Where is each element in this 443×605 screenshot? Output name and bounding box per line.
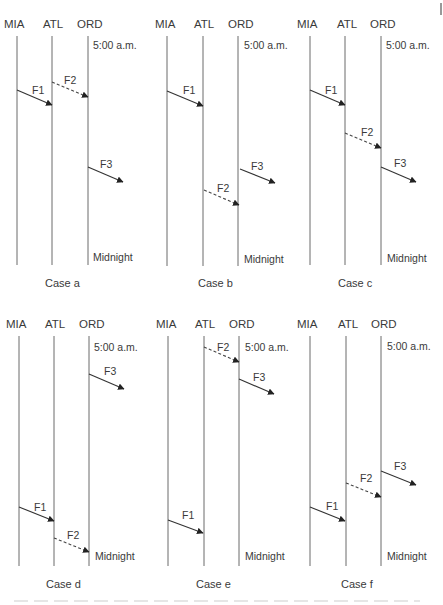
station-label-atl: ATL — [195, 318, 216, 330]
start-time-label: 5:00 a.m. — [93, 39, 137, 51]
end-time-label: Midnight — [244, 253, 284, 265]
station-label-mia: MIA — [155, 18, 176, 30]
flight-label-f2: F2 — [67, 529, 79, 541]
flight-label-f1: F1 — [326, 500, 338, 512]
case-f-panel: MIA ATL ORD 5:00 a.m. Midnight F3 F2 F1 … — [297, 318, 431, 590]
start-time-label: 5:00 a.m. — [386, 39, 430, 51]
case-label: Case f — [341, 578, 374, 590]
flight-arrow-f3 — [381, 471, 416, 485]
end-time-label: Midnight — [95, 550, 135, 562]
station-label-atl: ATL — [338, 318, 359, 330]
station-label-mia: MIA — [297, 318, 318, 330]
case-a-panel: MIA ATL ORD 5:00 a.m. Midnight F1 F2 F3 … — [4, 18, 137, 289]
end-time-label: Midnight — [387, 252, 427, 264]
station-label-mia: MIA — [156, 318, 177, 330]
station-label-ord: ORD — [229, 318, 255, 330]
flight-label-f2: F2 — [360, 472, 372, 484]
flight-label-f2: F2 — [64, 74, 76, 86]
flight-arrow-f1 — [168, 520, 203, 533]
end-time-label: Midnight — [93, 251, 133, 263]
start-time-label: 5:00 a.m. — [244, 39, 288, 51]
station-label-ord: ORD — [77, 18, 103, 30]
end-time-label: Midnight — [387, 550, 427, 562]
case-label: Case e — [196, 578, 231, 590]
flight-label-f1: F1 — [325, 84, 337, 96]
station-label-atl: ATL — [45, 318, 66, 330]
case-label: Case d — [46, 578, 81, 590]
case-label: Case a — [45, 277, 81, 289]
flight-label-f1: F1 — [183, 84, 195, 96]
case-label: Case c — [338, 277, 373, 289]
flight-label-f3: F3 — [253, 371, 265, 383]
station-label-mia: MIA — [4, 18, 25, 30]
start-time-label: 5:00 a.m. — [245, 341, 289, 353]
station-label-atl: ATL — [194, 18, 215, 30]
station-label-mia: MIA — [6, 318, 27, 330]
station-label-ord: ORD — [228, 18, 254, 30]
case-label: Case b — [198, 277, 233, 289]
flight-arrow-f3 — [381, 167, 416, 182]
flight-timeline-diagram: MIA ATL ORD 5:00 a.m. Midnight F1 F2 F3 … — [0, 0, 443, 605]
flight-label-f1: F1 — [32, 84, 44, 96]
flight-label-f1: F1 — [34, 501, 46, 513]
start-time-label: 5:00 a.m. — [387, 340, 431, 352]
flight-arrow-f2 — [346, 483, 381, 497]
case-e-panel: MIA ATL ORD 5:00 a.m. Midnight F2 F3 F1 … — [156, 318, 289, 590]
flight-label-f2: F2 — [361, 126, 373, 138]
station-label-atl: ATL — [337, 18, 358, 30]
end-time-label: Midnight — [245, 550, 285, 562]
case-b-panel: MIA ATL ORD 5:00 a.m. Midnight F1 F3 F2 … — [155, 18, 288, 289]
flight-label-f3: F3 — [394, 157, 406, 169]
station-label-mia: MIA — [297, 18, 318, 30]
station-label-ord: ORD — [79, 318, 105, 330]
station-label-atl: ATL — [43, 18, 64, 30]
flight-label-f2: F2 — [217, 182, 229, 194]
station-label-ord: ORD — [370, 18, 396, 30]
flight-label-f3: F3 — [394, 460, 406, 472]
start-time-label: 5:00 a.m. — [94, 341, 138, 353]
flight-label-f2: F2 — [217, 341, 229, 353]
case-d-panel: MIA ATL ORD 5:00 a.m. Midnight F3 F1 F2 … — [6, 318, 138, 590]
station-label-ord: ORD — [371, 318, 397, 330]
flight-label-f3: F3 — [104, 365, 116, 377]
case-c-panel: MIA ATL ORD 5:00 a.m. Midnight F1 F2 F3 … — [297, 18, 430, 289]
flight-label-f3: F3 — [251, 160, 263, 172]
flight-label-f1: F1 — [182, 509, 194, 521]
flight-label-f3: F3 — [100, 158, 112, 170]
